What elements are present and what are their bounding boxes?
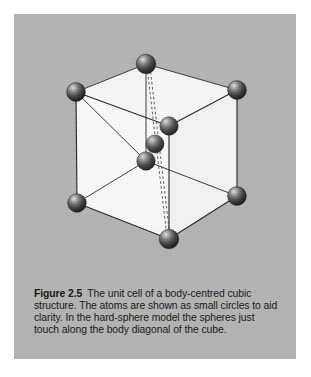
- unit-cell-diagram: [14, 14, 296, 264]
- atom-corner-top-back-right: [136, 54, 156, 74]
- atom-corner-top-back-left: [67, 83, 86, 102]
- figure-panel: Figure 2.5The unit cell of a body-centre…: [14, 14, 296, 359]
- atom-corner-bottom-front-right: [228, 187, 247, 206]
- figure-caption: Figure 2.5The unit cell of a body-centre…: [34, 288, 282, 336]
- figure-page: Figure 2.5The unit cell of a body-centre…: [0, 0, 311, 377]
- unit-cell-svg: [14, 14, 296, 264]
- atom-corner-top-front-right: [228, 81, 247, 100]
- atom-corner-bottom-back-right: [137, 152, 155, 170]
- atom-corner-top-front-left: [160, 117, 178, 135]
- atom-body-centre: [146, 135, 164, 153]
- atom-corner-bottom-front-left: [159, 229, 179, 249]
- figure-label: Figure 2.5: [34, 288, 82, 299]
- atom-corner-bottom-back-left: [68, 194, 87, 213]
